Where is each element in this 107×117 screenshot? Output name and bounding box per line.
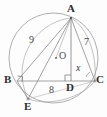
length-label-be: 8 [49, 85, 54, 95]
center-label-O: O [59, 51, 66, 61]
point-dot-O [55, 57, 57, 59]
arc-E-to-C [28, 81, 95, 102]
point-label-C: C [96, 74, 104, 85]
angle-label-x: x [76, 63, 80, 73]
length-label-ac: 7 [84, 37, 89, 47]
geometry-figure: A B C D E O 9 7 8 x [0, 0, 107, 117]
point-label-A: A [67, 3, 75, 14]
length-label-ab: 9 [29, 35, 34, 45]
point-label-D: D [66, 82, 74, 93]
geometry-canvas [0, 0, 107, 117]
segment-BE [17, 81, 28, 99]
segment-AC [71, 18, 95, 81]
point-dot-A [70, 17, 72, 19]
point-label-E: E [24, 101, 31, 112]
point-label-B: B [4, 74, 11, 85]
angle-arc-C [86, 72, 90, 77]
